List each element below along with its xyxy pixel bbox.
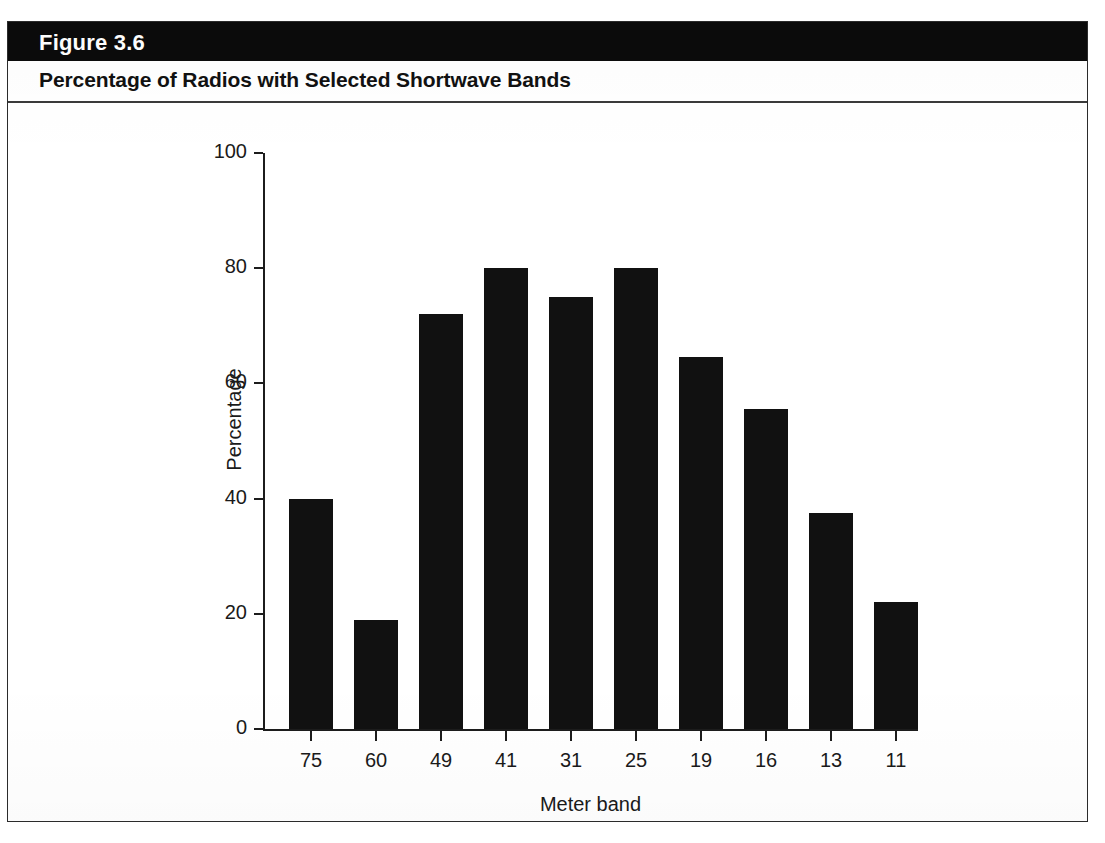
bars-layer — [263, 153, 918, 729]
bar — [419, 314, 463, 729]
bar — [874, 602, 918, 729]
x-axis-line — [263, 729, 918, 731]
x-axis-tick-label: 75 — [300, 749, 322, 772]
bar — [549, 297, 593, 729]
y-axis-tick — [254, 728, 263, 730]
x-axis-tick-label: 60 — [365, 749, 387, 772]
figure-number-label: Figure 3.6 — [39, 30, 145, 56]
plot-area: 020406080100 75604941312519161311 — [263, 153, 918, 729]
x-axis-tick-label: 49 — [430, 749, 452, 772]
x-axis-tick-label: 25 — [625, 749, 647, 772]
bar — [614, 268, 658, 729]
bar — [484, 268, 528, 729]
x-axis-tick — [570, 731, 572, 741]
x-axis-tick-label: 31 — [560, 749, 582, 772]
x-axis-tick-label: 11 — [886, 749, 907, 772]
x-axis-tick-label: 13 — [820, 749, 842, 772]
y-axis-tick-label: 80 — [185, 255, 247, 278]
y-axis-tick — [254, 267, 263, 269]
x-axis-tick — [505, 731, 507, 741]
y-axis-tick — [254, 498, 263, 500]
bar — [289, 499, 333, 729]
x-axis-tick — [375, 731, 377, 741]
figure-title: Percentage of Radios with Selected Short… — [39, 68, 571, 92]
y-axis-tick-label: 100 — [185, 140, 247, 163]
x-axis-tick — [700, 731, 702, 741]
figure-frame: Figure 3.6 Percentage of Radios with Sel… — [7, 21, 1088, 822]
y-axis-tick — [254, 152, 263, 154]
y-axis-tick-label: 60 — [185, 370, 247, 393]
x-axis-tick — [310, 731, 312, 741]
figure-title-row: Percentage of Radios with Selected Short… — [8, 61, 1087, 103]
x-axis-tick — [440, 731, 442, 741]
y-axis-tick — [254, 613, 263, 615]
y-axis-tick-label: 40 — [185, 486, 247, 509]
y-axis-tick-label: 20 — [185, 601, 247, 624]
bar — [809, 513, 853, 729]
bar — [744, 409, 788, 729]
x-axis-tick — [895, 731, 897, 741]
chart-canvas: Percentage 020406080100 7560494131251916… — [8, 103, 1087, 821]
x-axis-tick — [635, 731, 637, 741]
y-axis-tick-label: 0 — [185, 716, 247, 739]
x-axis-tick — [830, 731, 832, 741]
x-axis-tick-label: 19 — [690, 749, 712, 772]
x-axis-tick — [765, 731, 767, 741]
x-axis-title: Meter band — [263, 793, 918, 816]
x-axis-tick-label: 41 — [495, 749, 517, 772]
bar — [354, 620, 398, 729]
x-axis-tick-label: 16 — [755, 749, 777, 772]
figure-number-band: Figure 3.6 — [8, 22, 1087, 61]
y-axis-tick — [254, 382, 263, 384]
bar — [679, 357, 723, 729]
